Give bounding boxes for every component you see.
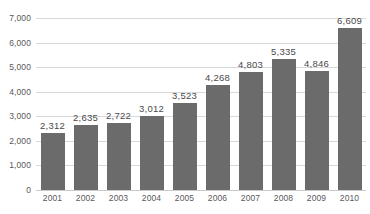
plot-area: 01,0002,0003,0004,0005,0006,0007,000 2,3… <box>36 18 366 190</box>
bar[interactable] <box>74 125 98 190</box>
gridline <box>36 190 366 191</box>
bar-chart: 01,0002,0003,0004,0005,0006,0007,000 2,3… <box>0 0 370 214</box>
bar[interactable] <box>272 59 296 190</box>
bar-group: 6,6092010 <box>333 18 366 190</box>
bar-value-label: 2,312 <box>40 120 65 131</box>
x-axis-tick-label: 2004 <box>142 193 161 203</box>
bar-group: 2,7222003 <box>102 18 135 190</box>
bar-value-label: 4,846 <box>304 58 329 69</box>
bar-group: 3,0122004 <box>135 18 168 190</box>
bar-group: 3,5232005 <box>168 18 201 190</box>
bar-value-label: 2,635 <box>73 112 98 123</box>
x-axis-tick-label: 2006 <box>208 193 227 203</box>
bar-group: 4,2682006 <box>201 18 234 190</box>
y-axis-tick-label: 4,000 <box>9 87 31 97</box>
x-axis-tick-label: 2005 <box>175 193 194 203</box>
bar-value-label: 4,803 <box>238 59 263 70</box>
y-axis-tick-label: 2,000 <box>9 136 31 146</box>
bar-group: 4,8032007 <box>234 18 267 190</box>
bar-series: 2,31220012,63520022,72220033,01220043,52… <box>36 18 366 190</box>
y-axis-tick-label: 5,000 <box>9 62 31 72</box>
bar-group: 4,8462009 <box>300 18 333 190</box>
x-axis-tick-label: 2007 <box>241 193 260 203</box>
bar-group: 2,3122001 <box>36 18 69 190</box>
bar[interactable] <box>338 28 362 190</box>
y-axis-tick-label: 0 <box>26 185 31 195</box>
y-axis-tick-label: 3,000 <box>9 111 31 121</box>
bar-value-label: 4,268 <box>205 72 230 83</box>
bar-value-label: 5,335 <box>271 46 296 57</box>
bar[interactable] <box>173 103 197 190</box>
bar-value-label: 6,609 <box>337 15 362 26</box>
bar-value-label: 2,722 <box>106 110 131 121</box>
bar-group: 2,6352002 <box>69 18 102 190</box>
bar-value-label: 3,012 <box>139 103 164 114</box>
bar[interactable] <box>305 71 329 190</box>
bar[interactable] <box>239 72 263 190</box>
bar-value-label: 3,523 <box>172 90 197 101</box>
bar[interactable] <box>206 85 230 190</box>
y-axis-tick-label: 6,000 <box>9 38 31 48</box>
bar[interactable] <box>41 133 65 190</box>
y-axis-tick-label: 1,000 <box>9 160 31 170</box>
x-axis-tick-label: 2001 <box>43 193 62 203</box>
bar[interactable] <box>107 123 131 190</box>
x-axis-tick-label: 2008 <box>274 193 293 203</box>
bar[interactable] <box>140 116 164 190</box>
x-axis-tick-label: 2002 <box>76 193 95 203</box>
x-axis-tick-label: 2003 <box>109 193 128 203</box>
x-axis-tick-label: 2010 <box>340 193 359 203</box>
x-axis-tick-label: 2009 <box>307 193 326 203</box>
bar-group: 5,3352008 <box>267 18 300 190</box>
y-axis-tick-label: 7,000 <box>9 13 31 23</box>
